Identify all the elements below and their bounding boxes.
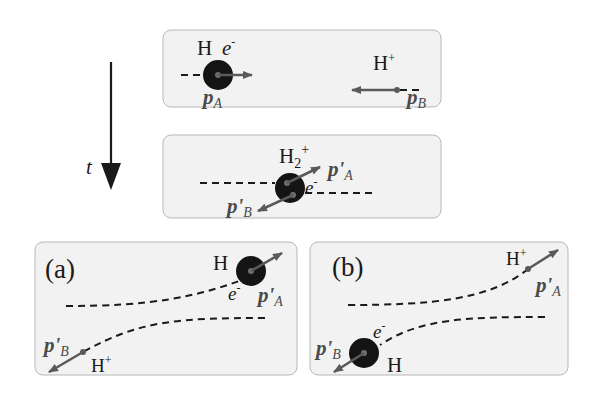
ion-label: H [506,248,520,269]
panel-outcome-a: (a) H e- p'A p'B H+ [35,242,297,376]
atom-label: H [197,36,212,60]
momentum-b-prime-label: p' [225,194,244,218]
momentum-a-prime-label: p' [256,283,275,307]
proton [394,87,400,93]
panel-tag-a: (a) [45,254,75,284]
momentum-a-prime-label: p' [534,273,553,297]
panel-molecular-ion: H2+ e- p'A p'B [163,135,441,220]
atom-label: H [213,251,228,275]
atom-label: H [387,353,402,377]
time-label: t [86,155,93,179]
momentum-b-prime-label: p' [42,333,61,357]
electron-label: e [228,283,236,304]
molecule-label: H [279,144,294,168]
panel-outcome-b: (b) H+ p'A e- p'B H [310,242,568,377]
panel-initial: H e- pA H+ pB [163,30,441,111]
electron-label: e [305,177,313,198]
ion-label: H [373,51,388,75]
arrow-down-icon [101,163,121,190]
panel-tag-b: (b) [332,252,363,282]
momentum-b-prime-label: p' [314,336,333,360]
electron-label: e [222,36,231,60]
momentum-b-label: p [405,85,418,109]
collision-diagram: t H e- pA H+ pB H2+ e- p'A p'B (a) [0,0,593,398]
momentum-a-prime-label: p' [326,157,345,181]
time-arrow: t [86,62,121,190]
electron-label: e [373,321,381,342]
momentum-a-label: p [201,85,214,109]
ion-label: H [91,355,105,376]
